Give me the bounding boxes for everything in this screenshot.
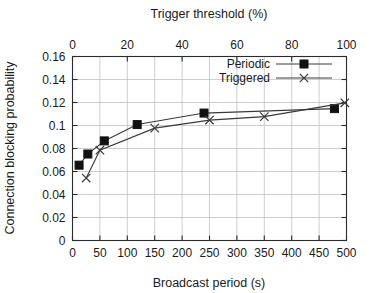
data-point-marker — [133, 121, 141, 129]
data-point-marker — [84, 150, 92, 158]
chart-figure: 00.020.040.060.080.10.120.140.1605010015… — [0, 0, 383, 293]
y-tick-label: 0.06 — [42, 165, 66, 179]
y-tick-label: 0.08 — [42, 142, 66, 156]
x-tick-label: 400 — [282, 246, 302, 260]
x-tick-label: 200 — [172, 246, 192, 260]
x-tick-label: 50 — [93, 246, 107, 260]
top-axis-tick-label: 100 — [336, 38, 356, 52]
y-tick-label: 0.02 — [42, 211, 66, 225]
top-axis-tick-label: 20 — [121, 38, 135, 52]
x-tick-label: 100 — [117, 246, 137, 260]
x-tick-label: 350 — [254, 246, 274, 260]
y-tick-label: 0.16 — [42, 50, 66, 64]
y-tick-label: 0.1 — [49, 119, 66, 133]
y-tick-label: 0.12 — [42, 96, 66, 110]
y-axis-title: Connection blocking probability — [3, 61, 17, 235]
data-point-marker — [200, 109, 208, 117]
x-tick-label: 0 — [69, 246, 76, 260]
x-tick-label: 150 — [145, 246, 165, 260]
data-point-marker — [75, 161, 83, 169]
y-tick-label: 0.14 — [42, 73, 66, 87]
top-axis-tick-label: 60 — [230, 38, 244, 52]
top-axis-title: Trigger threshold (%) — [151, 7, 268, 21]
legend-label-periodic: Periodic — [227, 57, 270, 71]
x-tick-label: 500 — [336, 246, 356, 260]
data-point-marker — [100, 137, 108, 145]
bottom-axis-title: Broadcast period (s) — [153, 276, 266, 290]
x-tick-label: 300 — [227, 246, 247, 260]
top-axis-tick-label: 0 — [69, 38, 76, 52]
chart-canvas: 00.020.040.060.080.10.120.140.1605010015… — [0, 0, 383, 293]
data-point-marker — [330, 105, 338, 113]
x-tick-label: 250 — [199, 246, 219, 260]
y-tick-label: 0 — [59, 234, 66, 248]
legend-label-triggered: Triggered — [219, 71, 270, 85]
x-tick-label: 450 — [309, 246, 329, 260]
top-axis-tick-label: 40 — [175, 38, 189, 52]
top-axis-tick-label: 80 — [285, 38, 299, 52]
legend-marker-square — [300, 60, 308, 68]
y-tick-label: 0.04 — [42, 188, 66, 202]
